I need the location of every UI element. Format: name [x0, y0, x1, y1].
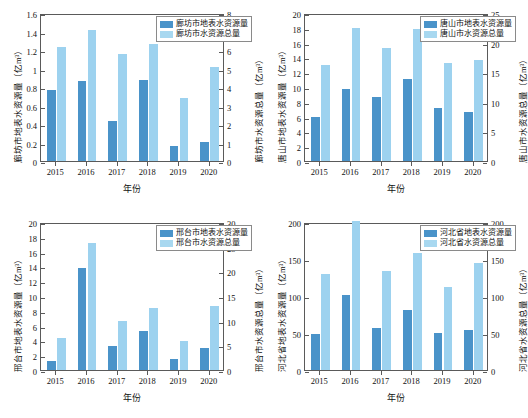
- x-tick-mark: [319, 371, 320, 375]
- legend-item-2[interactable]: 廊坊市水资源总量: [160, 29, 248, 39]
- x-tick-mark: [350, 371, 351, 375]
- bar-hebei-2019-s2: [444, 287, 453, 370]
- y-tick-label-left: 6: [33, 323, 37, 332]
- y-tick-label-left: 10: [29, 294, 38, 303]
- x-axis-ticks: 201520162017201820192020: [304, 162, 488, 182]
- y-tick-label-right: 0: [491, 368, 495, 377]
- y-tick-label-left: 0: [33, 368, 37, 377]
- x-tick-label: 2020: [464, 167, 481, 177]
- y-axis-title-left: 河北省地表水资源量（亿m³）: [275, 255, 287, 372]
- x-tick-mark: [319, 162, 320, 166]
- legend-label: 邢台市水资源总量: [176, 238, 240, 248]
- y-tick-label-left: 100: [288, 294, 301, 303]
- x-tick-mark: [473, 371, 474, 375]
- x-tick-mark: [442, 371, 443, 375]
- y-tick-label-left: 12: [29, 279, 38, 288]
- x-tick-label: 2018: [403, 376, 420, 386]
- y-tick-label-left: 14: [29, 264, 38, 273]
- legend-label: 廊坊市水资源总量: [176, 29, 240, 39]
- y-tick-label-right: 0: [227, 159, 231, 168]
- x-tick-label: 2015: [311, 376, 328, 386]
- y-tick-label-right: 15: [227, 294, 236, 303]
- x-tick-mark: [209, 371, 210, 375]
- legend-item-1[interactable]: 廊坊市地表水资源量: [160, 19, 248, 29]
- x-tick-mark: [411, 371, 412, 375]
- y-tick-label-right: 5: [227, 343, 231, 352]
- x-axis-ticks: 201520162017201820192020: [40, 371, 224, 391]
- bar-hebei-2020-s1: [464, 330, 473, 370]
- legend-item-1[interactable]: 唐山市地表水资源量: [424, 19, 512, 29]
- x-tick-label: 2019: [170, 376, 187, 386]
- bar-hebei-2018-s2: [413, 253, 422, 370]
- legend[interactable]: 唐山市地表水资源量唐山市水资源总量: [420, 16, 516, 42]
- y-tick-label-left: 14: [293, 55, 302, 64]
- y-tick-label-right: 0: [491, 159, 495, 168]
- legend[interactable]: 河北省地表水资源量河北省水资源总量: [420, 225, 516, 251]
- chart-panel-xingtai: 邢台市地表水资源量（亿m³）邢台市水资源总量（亿m³）0246810121416…: [0, 209, 264, 418]
- bar-hebei-2020-s2: [474, 263, 483, 370]
- bar-xingtai-2016-s1: [78, 268, 87, 370]
- bar-hebei-2017-s2: [382, 271, 391, 370]
- x-tick-mark: [86, 371, 87, 375]
- bar-tangshan-2019-s2: [444, 63, 453, 161]
- legend-swatch-icon: [424, 31, 437, 38]
- x-axis-title: 年份: [0, 391, 264, 404]
- bar-hebei-2018-s1: [403, 310, 412, 370]
- bar-langfang-2020-s1: [200, 142, 209, 161]
- y-tick-label-left: 1.2: [26, 48, 37, 57]
- x-tick-mark: [442, 162, 443, 166]
- legend-swatch-icon: [160, 230, 173, 237]
- bar-langfang-2019-s2: [180, 98, 189, 161]
- y-tick-label-left: 20: [293, 11, 302, 20]
- y-tick-label-left: 4: [33, 338, 37, 347]
- legend-item-2[interactable]: 河北省水资源总量: [424, 238, 512, 248]
- legend-item-2[interactable]: 邢台市水资源总量: [160, 238, 248, 248]
- chart-panel-hebei: 河北省地表水资源量（亿m³）河北省水资源总量（亿m³）0501001502000…: [264, 209, 528, 418]
- x-tick-label: 2016: [78, 167, 95, 177]
- bar-hebei-2017-s1: [372, 328, 381, 370]
- legend[interactable]: 廊坊市地表水资源量廊坊市水资源总量: [156, 16, 252, 42]
- x-tick-label: 2018: [403, 167, 420, 177]
- x-tick-mark: [117, 162, 118, 166]
- legend-label: 邢台市地表水资源量: [176, 228, 248, 238]
- legend-swatch-icon: [424, 21, 437, 28]
- x-tick-label: 2020: [464, 376, 481, 386]
- bar-langfang-2016-s2: [88, 30, 97, 161]
- legend-item-1[interactable]: 邢台市地表水资源量: [160, 228, 248, 238]
- x-tick-label: 2018: [139, 376, 156, 386]
- x-tick-label: 2017: [108, 376, 125, 386]
- bar-xingtai-2018-s2: [149, 308, 158, 370]
- y-tick-label-left: 0.8: [26, 85, 37, 94]
- bar-tangshan-2018-s2: [413, 29, 422, 161]
- legend[interactable]: 邢台市地表水资源量邢台市水资源总量: [156, 225, 252, 251]
- y-tick-label-right: 15: [491, 70, 500, 79]
- y-tick-label-right: 10: [491, 100, 500, 109]
- y-tick-label-right: 50: [491, 331, 500, 340]
- y-tick-label-right: 100: [491, 294, 504, 303]
- bar-hebei-2015-s2: [321, 274, 330, 370]
- bar-xingtai-2017-s1: [108, 346, 117, 370]
- x-tick-mark: [86, 162, 87, 166]
- y-tick-label-left: 8: [297, 100, 301, 109]
- y-tick-label-left: 2: [297, 144, 301, 153]
- figure-caption: [0, 409, 528, 418]
- bar-tangshan-2020-s2: [474, 60, 483, 161]
- y-tick-label-left: 0: [297, 159, 301, 168]
- x-tick-mark: [178, 162, 179, 166]
- bar-xingtai-2015-s1: [47, 361, 56, 370]
- bar-xingtai-2020-s2: [210, 306, 219, 370]
- bar-tangshan-2015-s2: [321, 65, 330, 161]
- bar-langfang-2019-s1: [170, 146, 179, 161]
- legend-item-2[interactable]: 唐山市水资源总量: [424, 29, 512, 39]
- x-tick-label: 2015: [47, 167, 64, 177]
- bar-xingtai-2017-s2: [118, 321, 127, 370]
- legend-swatch-icon: [424, 240, 437, 247]
- x-tick-label: 2019: [434, 167, 451, 177]
- y-tick-label-left: 0: [33, 159, 37, 168]
- bar-tangshan-2015-s1: [311, 117, 320, 161]
- bar-langfang-2020-s2: [210, 67, 219, 161]
- bar-tangshan-2018-s1: [403, 79, 412, 161]
- x-tick-label: 2020: [200, 376, 217, 386]
- legend-item-1[interactable]: 河北省地表水资源量: [424, 228, 512, 238]
- x-tick-mark: [350, 162, 351, 166]
